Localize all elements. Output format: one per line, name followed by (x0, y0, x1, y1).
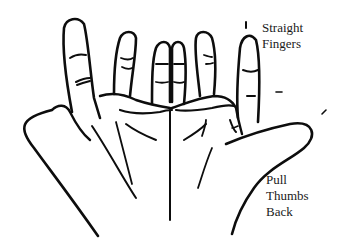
left-thumb-outline (24, 110, 98, 236)
right-ring-creases (174, 64, 184, 83)
left-ring-finger (152, 42, 170, 104)
pull-thumbs-back-line-2: Thumbs (266, 188, 309, 204)
left-middle-creases (121, 58, 133, 69)
right-index-finger (237, 36, 259, 122)
right-middle-creases (204, 55, 213, 64)
left-palm-top (100, 94, 170, 108)
straight-fingers-label: Straight Fingers (262, 20, 303, 52)
left-middle-finger (114, 32, 136, 96)
right-thumb-crease (230, 120, 236, 132)
hands-illustration: Straight Fingers Pull Thumbs Back (0, 0, 338, 238)
left-hand (24, 19, 172, 236)
left-index-finger (63, 19, 100, 118)
left-palm-crease-1 (120, 110, 172, 113)
left-palm-edge (92, 126, 136, 198)
left-index-crease-1 (70, 54, 86, 58)
left-palm-line (116, 122, 132, 184)
left-ring-creases (156, 64, 168, 83)
left-index-crease-2 (76, 78, 90, 85)
pull-thumbs-back-line-3: Back (266, 204, 309, 220)
right-ring-finger (172, 42, 186, 104)
right-palm-crease-1 (176, 105, 234, 111)
right-palm-line-2 (198, 148, 212, 188)
right-index-crease-1 (243, 70, 258, 72)
pull-thumbs-back-label: Pull Thumbs Back (266, 172, 309, 220)
left-palm-crease-2 (126, 124, 156, 140)
motion-mark-right (322, 110, 326, 114)
pull-thumbs-back-line-1: Pull (266, 172, 309, 188)
straight-fingers-line-2: Fingers (262, 36, 303, 52)
straight-fingers-line-1: Straight (262, 20, 303, 36)
